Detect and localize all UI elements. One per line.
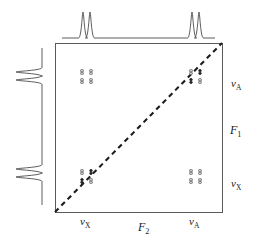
spectrum-canvas (0, 0, 271, 243)
F2-subscript: 2 (145, 227, 149, 236)
diagonal-peak-bottom-left-component-2 (90, 170, 93, 175)
nu-subscript: X (85, 221, 90, 230)
f2-projection-path (62, 12, 215, 38)
cross-peak-top-left-component-4 (90, 79, 93, 84)
f1-projection-path (16, 48, 42, 205)
diagonal-peak-bottom-left-component-4 (90, 179, 93, 184)
diagonal-peak-top-right-component-2 (199, 70, 202, 75)
cross-peak-bottom-right-component-1 (190, 170, 193, 175)
cross-peak-bottom-right-component-3 (190, 179, 193, 184)
diagonal-peak-bottom-left-component-3 (81, 179, 84, 184)
nu-subscript: A (194, 221, 199, 230)
cross-peak-bottom-right-component-4 (199, 179, 202, 184)
cross-peak-top-left-component-3 (81, 79, 84, 84)
axis-label-nu-A-f1: νA (231, 78, 241, 92)
axis-label-nu-A-f2: νA (189, 216, 199, 230)
axis-title-F1: F1 (230, 124, 241, 140)
cosy-spectrum-figure: νA νX F1 νX νA F2 (0, 0, 271, 243)
cross-peak-top-left-component-2 (90, 70, 93, 75)
cross-peak-bottom-right-component-2 (199, 170, 202, 175)
F1-subscript: 1 (237, 130, 241, 139)
f2-projection-trace (62, 12, 215, 38)
diagonal-peak-bottom-left-component-1 (81, 170, 84, 175)
diagonal-peak-top-right-component-4 (199, 79, 202, 84)
cross-peak-top-left-component-1 (81, 70, 84, 75)
diagonal-peak-top-right-component-3 (190, 79, 193, 84)
axis-title-F2: F2 (138, 221, 149, 237)
f1-projection-trace (16, 48, 42, 205)
nu-subscript: A (236, 83, 241, 92)
axis-label-nu-X-f2: νX (80, 216, 90, 230)
axis-label-nu-X-f1: νX (231, 178, 241, 192)
nu-subscript: X (236, 183, 241, 192)
diagonal-peak-top-right-component-1 (190, 70, 193, 75)
